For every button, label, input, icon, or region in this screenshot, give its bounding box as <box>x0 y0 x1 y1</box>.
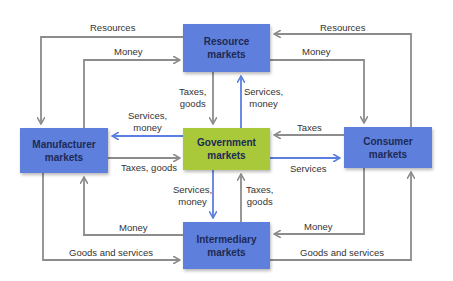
flow-label-line: goods <box>246 196 273 208</box>
flow-label: Goods and services <box>300 247 384 259</box>
flow-label: Money <box>304 221 333 233</box>
node-label: Consumer <box>363 135 412 148</box>
flow-label: Services <box>290 163 326 175</box>
node-label: markets <box>196 246 256 259</box>
node-government-markets: Governmentmarkets <box>183 128 270 170</box>
flow-label-line: Taxes, <box>179 86 206 98</box>
arrow-money-to-consumer <box>270 60 364 123</box>
node-intermediary-markets: Intermediarymarkets <box>183 222 270 269</box>
flow-label-line: Services, <box>244 86 283 98</box>
flow-label: Services, money <box>173 184 212 208</box>
flow-label: Money <box>114 46 143 58</box>
flow-label-line: money <box>244 98 283 110</box>
node-label: markets <box>197 149 256 162</box>
flow-label: Services, money <box>244 86 283 110</box>
node-consumer-markets: Consumermarkets <box>344 127 432 168</box>
flow-label-line: money <box>128 122 167 134</box>
node-label: Intermediary <box>196 233 256 246</box>
node-label: markets <box>363 148 412 161</box>
flow-label: Services, money <box>128 110 167 134</box>
flow-label: Money <box>119 222 148 234</box>
flow-label-line: goods <box>179 98 206 110</box>
node-label: markets <box>32 151 95 164</box>
flow-label-line: money <box>173 196 212 208</box>
node-label: Resource <box>204 35 250 48</box>
node-label: Manufacturer <box>32 138 95 151</box>
node-label: markets <box>204 48 250 61</box>
flow-label: Taxes, goods <box>246 184 273 208</box>
arrow-resources-to-resource-market <box>274 34 411 127</box>
flow-label: Taxes, goods <box>121 162 177 174</box>
flow-label-line: Services, <box>173 184 212 196</box>
market-flow-diagram: Resourcemarkets Manufacturermarkets Gove… <box>0 0 453 281</box>
flow-label-line: Services, <box>128 110 167 122</box>
flow-label: Goods and services <box>69 247 153 259</box>
flow-label: Resources <box>320 22 365 34</box>
flow-label: Resources <box>90 22 135 34</box>
node-resource-markets: Resourcemarkets <box>183 24 270 72</box>
node-manufacturer-markets: Manufacturermarkets <box>20 128 108 173</box>
node-label: Government <box>197 136 256 149</box>
flow-label: Money <box>302 46 331 58</box>
flow-label: Taxes, goods <box>179 86 206 110</box>
flow-label: Taxes <box>297 122 322 134</box>
flow-label-line: Taxes, <box>246 184 273 196</box>
